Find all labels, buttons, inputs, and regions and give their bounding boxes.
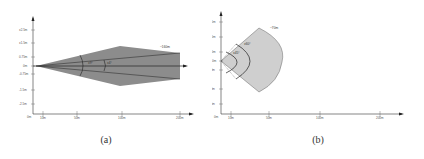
svg-text:-10m: -10m bbox=[212, 68, 215, 72]
panel-b: ±45° ±60° ~70m ±25m ±20m ±10m 0m -10m -2… bbox=[212, 0, 424, 159]
y-axis-arrow-icon bbox=[220, 11, 223, 16]
svg-text:100m: 100m bbox=[316, 116, 324, 120]
angle-label-narrow: ±4° bbox=[107, 61, 113, 65]
svg-text:0m: 0m bbox=[27, 115, 32, 119]
svg-text:200m: 200m bbox=[176, 116, 184, 120]
x-axis-arrow-icon bbox=[399, 113, 404, 116]
x-ticks: 0m 10m 50m 100m 200m bbox=[214, 111, 384, 120]
svg-text:±25m: ±25m bbox=[212, 20, 216, 24]
svg-text:0m: 0m bbox=[23, 64, 28, 68]
svg-text:±2.5m: ±2.5m bbox=[19, 28, 28, 32]
svg-text:-1.5m: -1.5m bbox=[19, 88, 27, 92]
svg-text:0m: 0m bbox=[212, 59, 217, 63]
angle-label-outer: ±60° bbox=[244, 42, 251, 46]
svg-text:-0.75m: -0.75m bbox=[19, 72, 29, 76]
svg-text:-2.5m: -2.5m bbox=[19, 102, 27, 106]
svg-text:±1.5m: ±1.5m bbox=[19, 41, 28, 45]
svg-text:-20m: -20m bbox=[212, 87, 215, 91]
angle-label-wide: ±9° bbox=[88, 61, 94, 65]
svg-text:±10m: ±10m bbox=[212, 50, 216, 54]
range-label: ~70m bbox=[270, 26, 278, 30]
y-ticks: ±2.5m ±1.5m 0.75m 0m -0.75m -1.5m -2.5m bbox=[19, 28, 35, 106]
svg-text:10m: 10m bbox=[40, 116, 46, 120]
panel-a: ±9° ±4° ~160m ±2.5m ±1.5m 0.75m 0m -0.75… bbox=[0, 0, 212, 159]
svg-text:50m: 50m bbox=[266, 116, 272, 120]
svg-text:10m: 10m bbox=[228, 116, 234, 120]
range-label: ~160m bbox=[160, 45, 170, 49]
svg-text:0.75m: 0.75m bbox=[19, 55, 28, 59]
caption-a: (a) bbox=[0, 134, 212, 145]
y-ticks: ±25m ±20m ±10m 0m -10m -20m -25m bbox=[212, 20, 223, 106]
y-axis-arrow-icon bbox=[32, 16, 35, 21]
x-axis-arrow-icon bbox=[189, 113, 194, 116]
angle-label-inner: ±45° bbox=[233, 51, 240, 55]
x-ticks: 0m 10m 50m 100m 200m bbox=[27, 111, 184, 120]
svg-text:-25m: -25m bbox=[212, 102, 215, 106]
coverage-region-wide bbox=[221, 28, 283, 92]
svg-text:200m: 200m bbox=[376, 116, 384, 120]
svg-text:±20m: ±20m bbox=[212, 35, 216, 39]
svg-text:0m: 0m bbox=[214, 115, 219, 119]
caption-b: (b) bbox=[212, 134, 424, 145]
svg-text:50m: 50m bbox=[74, 116, 80, 120]
boresight-arrow-icon bbox=[183, 65, 188, 68]
svg-text:100m: 100m bbox=[118, 116, 126, 120]
